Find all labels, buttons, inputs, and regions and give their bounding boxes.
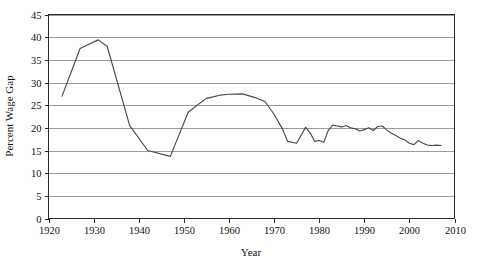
y-axis-ticks-group: 051015202530354045: [31, 10, 49, 225]
x-tick-label-1960: 1960: [219, 225, 240, 236]
x-tick-label-1920: 1920: [39, 225, 60, 236]
y-tick-label-0: 0: [36, 214, 41, 225]
chart-figure: 051015202530354045 192019301940195019601…: [0, 0, 478, 262]
y-tick-label-35: 35: [31, 55, 42, 66]
y-tick-label-25: 25: [31, 100, 42, 111]
x-tick-label-2010: 2010: [445, 225, 466, 236]
y-tick-label-20: 20: [31, 123, 42, 134]
x-tick-label-1990: 1990: [354, 225, 375, 236]
series-line-percent-wage-gap: [62, 40, 441, 157]
gridlines-group: [49, 16, 455, 197]
y-tick-label-10: 10: [31, 168, 42, 179]
y-tick-label-5: 5: [36, 191, 41, 202]
x-tick-label-1930: 1930: [84, 225, 105, 236]
x-tick-label-1940: 1940: [129, 225, 150, 236]
y-tick-label-15: 15: [31, 146, 42, 157]
x-axis-ticks-group: 1920193019401950196019701980199020002010: [39, 219, 466, 236]
wage-gap-line-chart: 051015202530354045 192019301940195019601…: [0, 0, 478, 262]
y-axis-title: Percent Wage Gap: [3, 75, 15, 157]
x-tick-label-2000: 2000: [399, 225, 420, 236]
y-tick-label-30: 30: [31, 78, 42, 89]
plot-frame: [49, 15, 455, 219]
x-tick-label-1980: 1980: [309, 225, 330, 236]
x-axis-title: Year: [241, 246, 262, 258]
x-tick-label-1970: 1970: [264, 225, 285, 236]
x-tick-label-1950: 1950: [174, 225, 195, 236]
y-tick-label-40: 40: [31, 32, 42, 43]
y-tick-label-45: 45: [31, 10, 42, 21]
